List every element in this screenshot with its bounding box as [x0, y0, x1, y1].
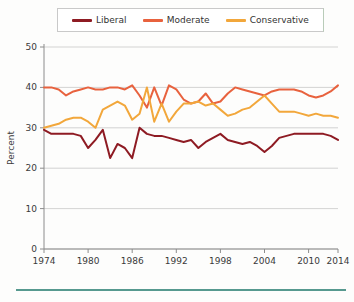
y-axis: 01020304050: [26, 42, 44, 254]
legend-label-moderate: Moderate: [167, 16, 210, 25]
ytick-label-50: 50: [26, 42, 38, 52]
plot-area-container: 01020304050 1974198019861992199820042010…: [0, 36, 354, 266]
legend-item-moderate[interactable]: Moderate: [143, 16, 210, 25]
legend-swatch-conservative: [226, 19, 246, 22]
series-line-conservative: [44, 87, 338, 127]
xtick-label-2010: 2010: [297, 256, 320, 266]
xtick-label-1980: 1980: [77, 256, 100, 266]
xtick-label-1986: 1986: [121, 256, 144, 266]
series-line-liberal: [44, 128, 338, 158]
legend-item-conservative[interactable]: Conservative: [226, 16, 309, 25]
ytick-label-20: 20: [26, 163, 38, 173]
legend-swatch-moderate: [143, 19, 163, 22]
legend-label-conservative: Conservative: [250, 16, 309, 25]
line-chart-figure: Liberal Moderate Conservative 0102030405…: [0, 0, 354, 302]
ytick-label-10: 10: [26, 204, 38, 214]
ytick-label-40: 40: [26, 82, 38, 92]
xtick-label-1974: 1974: [33, 256, 56, 266]
legend-label-liberal: Liberal: [96, 16, 126, 25]
xtick-label-2004: 2004: [253, 256, 276, 266]
plot-svg: 01020304050 1974198019861992199820042010…: [0, 36, 354, 266]
y-axis-title: Percent: [6, 131, 16, 165]
legend-swatch-liberal: [72, 19, 92, 22]
xtick-label-1992: 1992: [165, 256, 188, 266]
x-axis: 19741980198619921998200420102014: [33, 249, 350, 266]
ytick-label-0: 0: [31, 244, 37, 254]
legend-item-liberal[interactable]: Liberal: [72, 16, 126, 25]
ytick-label-30: 30: [26, 123, 38, 133]
xtick-label-1998: 1998: [209, 256, 232, 266]
bottom-divider-rule: [16, 289, 346, 291]
chart-legend: Liberal Moderate Conservative: [57, 8, 324, 32]
data-series-layer: [44, 85, 338, 158]
xtick-label-2014: 2014: [327, 256, 350, 266]
